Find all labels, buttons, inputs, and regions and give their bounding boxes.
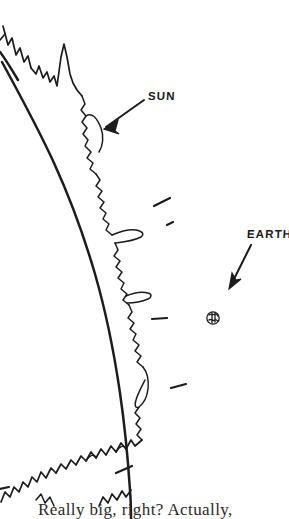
sun-label: SUN <box>148 91 176 103</box>
tick-mark-6 <box>0 487 9 489</box>
earth-disc <box>207 312 219 324</box>
earth-label: EARTH <box>247 229 289 241</box>
tick-marks <box>0 198 186 489</box>
tick-mark-4 <box>171 384 186 388</box>
solar-scale-diagram: SUN EARTH Really big, right? Actually, <box>0 0 289 519</box>
sun-arrow <box>104 100 144 134</box>
tick-mark-3 <box>152 318 167 319</box>
figure-caption: Really big, right? Actually, <box>38 500 289 519</box>
earth-arrow <box>229 245 251 289</box>
tick-mark-2 <box>167 222 173 225</box>
tick-mark-1 <box>154 198 170 206</box>
diagram-artwork <box>0 0 289 519</box>
